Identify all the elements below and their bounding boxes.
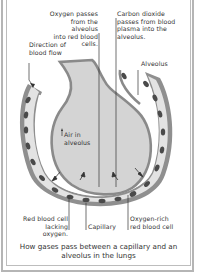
rbc-rich-label: Oxygen-rich red blood cell — [130, 215, 173, 230]
figure-caption: How gases pass between a capillary and a… — [10, 242, 187, 260]
rbc-low-label: Red blood cell lacking oxygen. — [18, 215, 68, 238]
capillary-label: Capillary — [88, 223, 116, 231]
alveolus-sac — [52, 60, 151, 194]
alveolus-label: Alveolus — [141, 60, 168, 68]
direction-label: Direction of blood flow — [29, 41, 66, 56]
co2-label: Carbon dioxide passes from blood plasma … — [117, 10, 175, 40]
air-label: Air in alveolus — [64, 131, 90, 146]
